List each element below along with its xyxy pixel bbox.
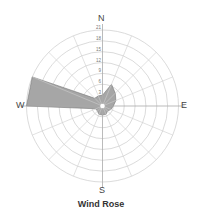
tick-label: 21 <box>96 25 102 30</box>
tick-label: 18 <box>96 36 102 41</box>
tick-label: 9 <box>98 68 101 73</box>
direction-label-n: N <box>98 13 105 23</box>
direction-label-w: W <box>16 100 25 110</box>
tick-label: 3 <box>98 90 101 95</box>
spoke-sw <box>49 106 103 160</box>
tick-label: 12 <box>96 58 102 63</box>
chart-title: Wind Rose <box>0 199 202 209</box>
center-hole <box>100 104 105 109</box>
direction-label-s: S <box>99 185 105 195</box>
spoke-ne <box>103 52 157 106</box>
spoke-se <box>103 106 157 160</box>
direction-label-e: E <box>181 100 187 110</box>
tick-label: 15 <box>96 47 102 52</box>
tick-label: 6 <box>98 79 101 84</box>
